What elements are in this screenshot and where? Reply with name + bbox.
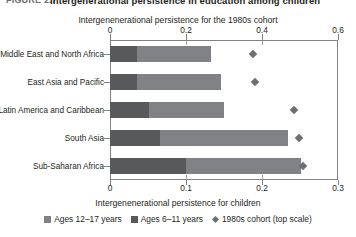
- tick-mark: [262, 34, 263, 40]
- bar-segment-ages-6-11: [110, 158, 186, 174]
- bar-segment-ages-6-11: [110, 46, 137, 62]
- legend-item: 1980s cohort (top scale): [212, 214, 312, 224]
- category-label: Sub-Saharan Africa: [33, 162, 104, 171]
- tick-mark-inner: [186, 175, 187, 179]
- bottom-axis-tick-labels: 00.10.20.3: [0, 183, 356, 194]
- tick-mark: [110, 34, 111, 40]
- bar-segment-ages-12-17: [186, 158, 301, 174]
- bar-segment-ages-12-17: [160, 130, 288, 146]
- legend-square-icon: [44, 216, 51, 223]
- category-label: South Asia: [65, 134, 104, 143]
- bar-segment-ages-6-11: [110, 130, 160, 146]
- tick-mark-inner: [186, 41, 187, 45]
- bar-segment-ages-12-17: [137, 46, 211, 62]
- figure-title-strip: FIGURE 2.7 Intergenerational persistence…: [0, 0, 356, 9]
- legend-diamond-icon: [212, 215, 219, 222]
- category-label: Middle East and North Africa: [0, 50, 104, 59]
- legend-label: Ages 6–11 years: [141, 214, 203, 224]
- tick-mark: [338, 34, 339, 40]
- bar-segment-ages-12-17: [149, 102, 224, 118]
- tick-mark-inner: [262, 175, 263, 179]
- bottom-axis-title: Intergenenerational persistence for chil…: [0, 198, 356, 208]
- legend-item: Ages 6–11 years: [131, 214, 203, 224]
- legend-label: 1980s cohort (top scale): [222, 214, 312, 224]
- legend-square-icon: [131, 216, 138, 223]
- bar-segment-ages-6-11: [110, 74, 137, 90]
- category-label: East Asia and Pacific: [28, 78, 104, 87]
- tick-mark-inner: [262, 41, 263, 45]
- top-axis-title: Intergenenerational persistence for the …: [0, 15, 356, 25]
- tick-mark: [186, 34, 187, 40]
- bar-segment-ages-6-11: [110, 102, 149, 118]
- figure-title: Intergenerational persistence in educati…: [50, 0, 320, 6]
- bar-segment-ages-12-17: [137, 74, 221, 90]
- chart-legend: Ages 12–17 yearsAges 6–11 years1980s coh…: [0, 214, 356, 224]
- legend-label: Ages 12–17 years: [54, 214, 122, 224]
- legend-item: Ages 12–17 years: [44, 214, 122, 224]
- category-label: Latin America and Caribbean: [0, 106, 104, 115]
- tick-mark: [186, 180, 187, 185]
- tick-mark: [110, 180, 111, 185]
- tick-mark: [262, 180, 263, 185]
- tick-mark: [338, 180, 339, 185]
- top-axis-tick-labels: 00.20.40.6: [0, 25, 356, 36]
